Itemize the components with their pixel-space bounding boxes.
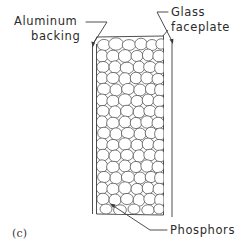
glass-leader-arrow-icon xyxy=(169,39,173,44)
phosphors-label: Phosphors xyxy=(170,223,235,237)
figure-caption: (c) xyxy=(12,227,27,240)
aluminum-backing-label-line1: Aluminum xyxy=(14,14,77,28)
aluminum-backing-label-line2: backing xyxy=(31,29,80,43)
aluminum-backing-layer xyxy=(93,44,97,214)
glass-faceplate-label-line2: faceplate xyxy=(171,20,230,34)
phosphor-granule-layer xyxy=(96,38,166,215)
figure-container: Aluminum backing Glass faceplate xyxy=(0,0,244,249)
aluminum-leader-arrow-icon xyxy=(91,42,95,47)
faceplate-top-tick xyxy=(163,30,168,36)
glass-faceplate-label-line1: Glass xyxy=(171,5,205,19)
glass-faceplate-layer xyxy=(164,36,173,217)
cross-section-diagram: Aluminum backing Glass faceplate xyxy=(0,0,244,249)
